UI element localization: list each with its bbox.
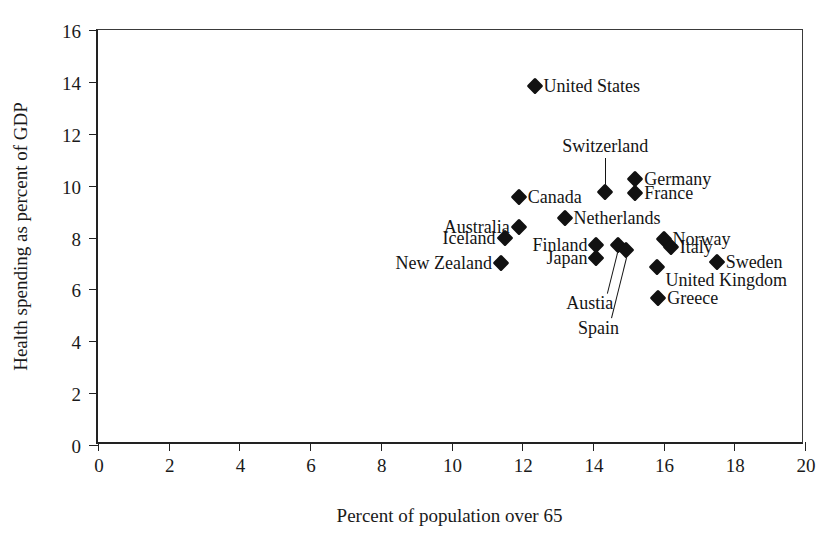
- label-leader-line: [605, 158, 606, 186]
- y-tick: 2: [89, 393, 98, 394]
- y-tick: 6: [89, 289, 98, 290]
- y-tick-label: 10: [62, 177, 81, 196]
- x-axis-title: Percent of population over 65: [96, 505, 803, 527]
- y-tick-label: 6: [72, 281, 82, 300]
- y-tick-label: 14: [62, 73, 81, 92]
- x-tick: 8: [381, 442, 382, 451]
- plot-area: 0246810121416 02468101214161820 United S…: [96, 29, 803, 444]
- x-tick: 6: [310, 442, 311, 451]
- x-tick-label: 16: [655, 456, 674, 475]
- data-point-marker[interactable]: [597, 184, 614, 201]
- y-tick: 4: [89, 341, 98, 342]
- data-point-marker[interactable]: [627, 185, 644, 202]
- data-point-label: Austia: [566, 294, 613, 312]
- y-tick: 12: [89, 134, 98, 135]
- data-point-marker[interactable]: [510, 189, 527, 206]
- data-point-label: Greece: [667, 289, 718, 307]
- y-tick-label: 16: [62, 22, 81, 41]
- x-tick: 18: [734, 442, 735, 451]
- y-tick: 0: [89, 445, 98, 446]
- data-point-label: Switzerland: [562, 137, 648, 155]
- y-tick: 8: [89, 238, 98, 239]
- data-point-label: Spain: [578, 319, 619, 337]
- data-point-label: Sweden: [726, 253, 783, 271]
- x-tick-label: 2: [165, 456, 175, 475]
- data-point-marker[interactable]: [650, 290, 667, 307]
- x-tick: 12: [522, 442, 523, 451]
- x-tick-label: 4: [236, 456, 246, 475]
- y-tick-label: 4: [72, 333, 82, 352]
- data-point-label: Japan: [546, 249, 587, 267]
- x-tick: 10: [452, 442, 453, 451]
- y-axis-title: Health spending as percent of GDP: [8, 29, 34, 444]
- data-point-label: Canada: [528, 188, 582, 206]
- data-point-label: Italy: [680, 238, 713, 256]
- x-tick: 14: [593, 442, 594, 451]
- x-tick: 16: [664, 442, 665, 451]
- x-tick: 2: [169, 442, 170, 451]
- data-point-label: United Kingdom: [666, 271, 788, 289]
- data-point-marker[interactable]: [510, 219, 527, 236]
- scatter-chart: Health spending as percent of GDP 024681…: [0, 0, 831, 553]
- y-tick: 10: [89, 186, 98, 187]
- data-point-marker[interactable]: [556, 210, 573, 227]
- x-tick-label: 12: [514, 456, 533, 475]
- x-tick-label: 14: [584, 456, 603, 475]
- x-tick: 20: [805, 442, 806, 451]
- data-point-marker[interactable]: [492, 255, 509, 272]
- data-point-label: Netherlands: [574, 209, 661, 227]
- data-point-label: France: [644, 184, 693, 202]
- x-tick: 0: [98, 442, 99, 451]
- y-tick-label: 0: [72, 437, 82, 456]
- x-tick-label: 18: [726, 456, 745, 475]
- y-tick-label: 12: [62, 125, 81, 144]
- x-tick-label: 8: [377, 456, 387, 475]
- y-tick: 16: [89, 30, 98, 31]
- x-tick-label: 20: [797, 456, 816, 475]
- label-leader-line: [607, 253, 619, 294]
- x-tick: 4: [239, 442, 240, 451]
- data-point-marker[interactable]: [588, 250, 605, 267]
- data-point-label: New Zealand: [396, 254, 492, 272]
- data-point-marker[interactable]: [648, 259, 665, 276]
- y-tick: 14: [89, 82, 98, 83]
- y-tick-label: 2: [72, 385, 82, 404]
- y-tick-label: 8: [72, 229, 82, 248]
- data-point-label: Iceland: [443, 229, 496, 247]
- x-tick-label: 0: [94, 456, 104, 475]
- x-tick-label: 6: [306, 456, 316, 475]
- data-point-marker[interactable]: [526, 77, 543, 94]
- x-tick-label: 10: [443, 456, 462, 475]
- data-point-label: United States: [544, 77, 641, 95]
